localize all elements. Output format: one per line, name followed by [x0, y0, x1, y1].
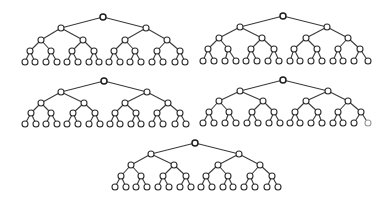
tree-nodes: [22, 14, 188, 65]
tree-edge: [327, 27, 348, 38]
leaf-node: [351, 58, 357, 64]
tree-edge: [61, 81, 104, 92]
leaf-node: [166, 184, 172, 190]
tree-node: [171, 162, 177, 168]
tree-node: [58, 25, 64, 31]
leaf-node: [112, 184, 118, 190]
leaf-node: [96, 59, 102, 65]
tree-edge: [240, 91, 263, 101]
leaf-node: [188, 184, 194, 190]
leaf-node: [308, 58, 314, 64]
leaf-node: [117, 59, 123, 65]
tree-node: [48, 110, 54, 116]
tree-edge: [240, 27, 262, 38]
leaf-node: [319, 58, 325, 64]
leaf-node: [75, 59, 81, 65]
leaf-node: [244, 120, 250, 126]
tree-node: [38, 100, 44, 106]
tree-node: [164, 37, 170, 43]
leaf-node: [106, 59, 112, 65]
leaf-node: [233, 120, 239, 126]
tree-node: [271, 46, 277, 52]
leaf-node: [308, 120, 314, 126]
tree-node: [247, 173, 253, 179]
tree-node: [165, 100, 171, 106]
tree-edge: [61, 17, 103, 28]
leaf-node: [277, 120, 283, 126]
leaf-node: [198, 184, 204, 190]
tree-node: [236, 151, 242, 157]
tree-node: [335, 46, 341, 52]
leaf-node: [160, 59, 166, 65]
tree-nodes: [112, 140, 281, 190]
leaf-node: [266, 120, 272, 126]
tree-edge: [147, 92, 168, 103]
tree-node: [291, 46, 297, 52]
leaf-node: [97, 121, 103, 127]
tree-node: [91, 48, 97, 54]
tree-edges: [203, 80, 368, 123]
tree-node: [183, 173, 189, 179]
leaf-node: [297, 58, 303, 64]
leaf-node: [107, 121, 113, 127]
leaf-node: [252, 184, 258, 190]
leaf-node: [149, 59, 155, 65]
tree-edge: [103, 17, 146, 28]
leaf-node: [177, 184, 183, 190]
tree-node: [345, 35, 351, 41]
tree-node: [205, 46, 211, 52]
leaf-node: [160, 121, 166, 127]
leaf-node: [117, 121, 123, 127]
leaf-node: [241, 184, 247, 190]
tree-node: [271, 109, 277, 115]
leaf-node: [75, 121, 81, 127]
tree-node: [249, 109, 255, 115]
tree-3: [22, 78, 189, 127]
leaf-node: [351, 120, 357, 126]
leaf-node: [365, 58, 371, 64]
leaf-node: [287, 120, 293, 126]
tree-node: [28, 110, 34, 116]
tree-node: [154, 48, 160, 54]
tree-node: [215, 162, 221, 168]
leaf-node: [230, 184, 236, 190]
tree-node: [315, 109, 321, 115]
tree-node: [226, 109, 232, 115]
leaf-node: [220, 184, 226, 190]
tree-node: [225, 46, 231, 52]
trees-group: [22, 13, 371, 190]
tree-node: [128, 162, 134, 168]
leaf-node: [254, 58, 260, 64]
tree-node: [160, 173, 166, 179]
leaf-node: [233, 58, 239, 64]
leaf-node: [54, 59, 60, 65]
binary-trees-figure: [0, 0, 392, 201]
tree-node: [92, 110, 98, 116]
tree-edge: [151, 143, 195, 154]
tree-node: [144, 89, 150, 95]
leaf-node: [200, 120, 206, 126]
tree-edge: [195, 143, 239, 154]
tree-node: [216, 98, 222, 104]
tree-node: [48, 48, 54, 54]
leaf-node: [287, 58, 293, 64]
tree-node: [81, 100, 87, 106]
leaf-node: [275, 184, 281, 190]
tree-node: [132, 48, 138, 54]
root-node: [101, 78, 107, 84]
tree-edge: [125, 92, 147, 103]
leaf-node: [128, 121, 134, 127]
tree-edges: [115, 143, 278, 187]
leaf-node: [33, 121, 39, 127]
tree-node: [324, 24, 330, 30]
tree-node: [38, 37, 44, 43]
tree-edge: [219, 27, 240, 38]
tree-node: [259, 35, 265, 41]
tree-4: [200, 77, 371, 126]
leaf-node: [86, 59, 92, 65]
leaf-node: [200, 58, 206, 64]
tree-node: [143, 25, 149, 31]
tree-edge: [218, 154, 239, 165]
tree-node: [303, 98, 309, 104]
leaf-node: [365, 120, 371, 126]
